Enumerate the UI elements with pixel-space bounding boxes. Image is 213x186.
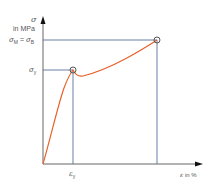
sigma-b-subscript: B: [31, 39, 34, 45]
y-axis-arrow-icon: [41, 16, 46, 24]
stress-strain-curve: [43, 40, 157, 164]
x-axis-symbol: ε: [180, 171, 183, 178]
sigma-y-subscript: y: [34, 69, 37, 75]
ultimate-stress-label: σM = σB: [9, 36, 34, 46]
yield-stress-label: σy: [29, 66, 36, 76]
y-axis-symbol: σ: [31, 16, 36, 24]
epsilon-y-subscript: y: [73, 173, 76, 179]
yield-strain-label: εy: [69, 170, 75, 180]
equals-sign: =: [18, 36, 26, 43]
y-axis-unit-label: in MPa: [13, 25, 35, 33]
x-axis-arrow-icon: [195, 162, 203, 167]
x-axis-label: ε in %: [180, 171, 197, 179]
x-axis-unit-label: in %: [185, 172, 197, 178]
stress-strain-diagram: σ in MPa σM = σB σy εy ε in %: [0, 0, 213, 186]
